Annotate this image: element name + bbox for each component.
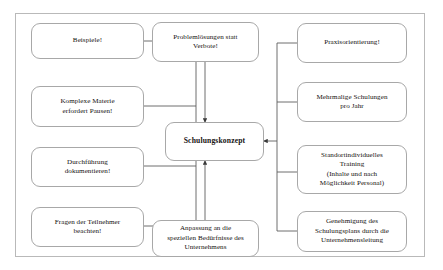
- node-right-3-label: Standortindividuelles Training (Inhalte …: [320, 151, 384, 189]
- node-right-1-label: Praxisorientierung!: [324, 38, 380, 47]
- node-right-4[interactable]: Genehmigung des Schulungsplans durch die…: [297, 211, 407, 252]
- node-left-3[interactable]: Durchführung dokumentieren!: [31, 147, 144, 187]
- node-right-2-label: Mehrmalige Schulungen pro Jahr: [317, 93, 388, 112]
- node-left-3-label: Durchführung dokumentieren!: [65, 158, 111, 177]
- node-left-2[interactable]: Komplexe Materie erfordert Pausen!: [31, 86, 144, 127]
- node-right-1[interactable]: Praxisorientierung!: [297, 23, 407, 63]
- node-left-4-label: Fragen der Teilnehmer beachten!: [55, 218, 120, 237]
- node-left-2-label: Komplexe Materie erfordert Pausen!: [60, 97, 114, 116]
- node-left-1[interactable]: Beispiele!: [31, 23, 144, 59]
- node-right-2[interactable]: Mehrmalige Schulungen pro Jahr: [297, 82, 407, 122]
- node-center-label: Schulungskonzept: [184, 136, 246, 146]
- diagram-canvas: Beispiele! Komplexe Materie erfordert Pa…: [0, 0, 443, 270]
- node-top-1-label: Problemlösungen statt Verbote!: [173, 33, 237, 52]
- node-bottom-1[interactable]: Anpassung an die speziellen Bedürfnisse …: [152, 220, 259, 257]
- node-bottom-1-label: Anpassung an die speziellen Bedürfnisse …: [167, 224, 244, 252]
- node-left-1-label: Beispiele!: [73, 36, 102, 45]
- node-right-4-label: Genehmigung des Schulungsplans durch die…: [315, 217, 389, 245]
- node-center[interactable]: Schulungskonzept: [165, 122, 264, 161]
- node-top-1[interactable]: Problemlösungen statt Verbote!: [152, 22, 259, 62]
- node-left-4[interactable]: Fragen der Teilnehmer beachten!: [31, 207, 144, 247]
- node-right-3[interactable]: Standortindividuelles Training (Inhalte …: [297, 145, 407, 194]
